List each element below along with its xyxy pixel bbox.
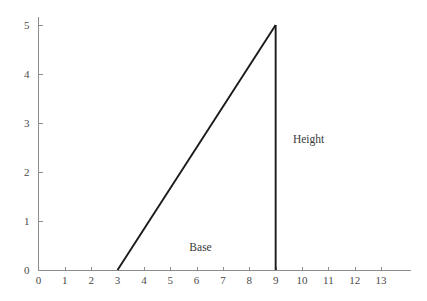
- x-tick-label: 12: [349, 274, 360, 286]
- axes-group: [38, 17, 411, 271]
- triangle-hypotenuse: [118, 25, 276, 270]
- x-tick-label: 2: [88, 274, 94, 286]
- x-tick-label: 6: [194, 274, 200, 286]
- y-tick-label: 5: [24, 19, 30, 31]
- y-axis-ticks: 012345: [24, 19, 43, 276]
- y-tick-label: 4: [24, 68, 30, 80]
- chart-annotations: BaseHeight: [189, 133, 325, 254]
- y-tick-label: 1: [24, 215, 30, 227]
- x-tick-label: 5: [168, 274, 174, 286]
- y-tick-label: 2: [24, 166, 30, 178]
- x-tick-label: 0: [36, 274, 42, 286]
- x-tick-label: 4: [141, 274, 147, 286]
- x-tick-label: 3: [115, 274, 121, 286]
- x-tick-label: 10: [297, 274, 309, 286]
- x-axis-ticks: 012345678910111213: [36, 267, 387, 287]
- x-tick-label: 13: [376, 274, 388, 286]
- x-tick-label: 8: [247, 274, 253, 286]
- annotation-label-base: Base: [189, 241, 211, 253]
- triangle-geometry-figure: 012345678910111213 012345 BaseHeight: [0, 0, 427, 301]
- x-tick-label: 11: [323, 274, 334, 286]
- triangle-shape-group: [118, 25, 276, 270]
- annotation-label-height: Height: [293, 133, 325, 146]
- chart-canvas: 012345678910111213 012345 BaseHeight: [0, 0, 427, 301]
- x-tick-label: 7: [220, 274, 226, 286]
- x-tick-label: 1: [62, 274, 68, 286]
- x-tick-label: 9: [273, 274, 279, 286]
- y-tick-label: 3: [24, 117, 30, 129]
- y-tick-label: 0: [24, 264, 30, 276]
